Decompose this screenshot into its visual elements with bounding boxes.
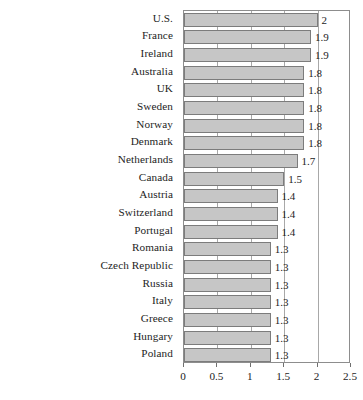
bar xyxy=(184,242,271,256)
x-tick-label: 2.5 xyxy=(343,370,357,382)
bar xyxy=(184,260,271,274)
category-label: Greece xyxy=(141,313,173,324)
category-label: UK xyxy=(157,83,173,94)
x-tick-label: 2 xyxy=(314,370,320,382)
category-label: Austria xyxy=(139,189,173,200)
bar-value-label: 1.8 xyxy=(308,101,322,115)
bar-value-label: 1.7 xyxy=(302,154,316,168)
bar-value-label: 1.3 xyxy=(275,260,289,274)
category-label: Netherlands xyxy=(118,154,173,165)
bar-value-label: 1.9 xyxy=(315,48,329,62)
bar xyxy=(184,66,304,80)
bar-value-label: 1.3 xyxy=(275,348,289,362)
category-label: Hungary xyxy=(133,331,173,342)
bar xyxy=(184,154,298,168)
bar xyxy=(184,136,304,150)
bar-value-label: 1.3 xyxy=(275,331,289,345)
category-label: Switzerland xyxy=(118,207,173,218)
bar-value-label: 1.3 xyxy=(275,295,289,309)
bar-value-label: 1.4 xyxy=(282,225,296,239)
gridline xyxy=(351,11,352,362)
bar-value-label: 1.4 xyxy=(282,189,296,203)
category-label: Italy xyxy=(152,295,173,306)
category-label: Canada xyxy=(139,172,173,183)
x-tick-label: 0 xyxy=(180,370,186,382)
bar xyxy=(184,313,271,327)
bar xyxy=(184,48,311,62)
bar xyxy=(184,119,304,133)
bar-value-label: 1.3 xyxy=(275,313,289,327)
x-tick-label: 0.5 xyxy=(209,370,223,382)
category-label: Russia xyxy=(143,278,173,289)
category-label: France xyxy=(142,30,173,41)
category-label: Romania xyxy=(132,242,173,253)
bars-layer: 21.91.91.81.81.81.81.81.71.51.41.41.41.3… xyxy=(184,11,349,362)
category-label: Poland xyxy=(141,348,173,359)
bar xyxy=(184,225,278,239)
category-label: Portugal xyxy=(134,225,173,236)
bar xyxy=(184,13,318,27)
bar xyxy=(184,189,278,203)
category-label: Denmark xyxy=(131,136,173,147)
bar xyxy=(184,331,271,345)
bar-value-label: 1.9 xyxy=(315,30,329,44)
bar-value-label: 1.3 xyxy=(275,278,289,292)
bar-value-label: 1.4 xyxy=(282,207,296,221)
plot-area: 21.91.91.81.81.81.81.81.71.51.41.41.41.3… xyxy=(183,10,350,363)
x-tick-mark xyxy=(317,363,318,367)
category-axis: U.S.FranceIrelandAustraliaUKSwedenNorway… xyxy=(0,10,178,363)
category-label: Sweden xyxy=(137,101,173,112)
bar-value-label: 1.8 xyxy=(308,136,322,150)
bar xyxy=(184,30,311,44)
x-tick-mark xyxy=(250,363,251,367)
bar-value-label: 1.8 xyxy=(308,66,322,80)
x-tick-label: 1.5 xyxy=(276,370,290,382)
category-label: Australia xyxy=(131,66,173,77)
bar-value-label: 2 xyxy=(322,13,328,27)
bar xyxy=(184,172,284,186)
category-label: Ireland xyxy=(141,48,173,59)
bar-value-label: 1.8 xyxy=(308,119,322,133)
x-tick-mark xyxy=(283,363,284,367)
category-label: U.S. xyxy=(153,13,173,24)
x-axis: 00.511.522.5 xyxy=(183,363,350,393)
x-tick-label: 1 xyxy=(247,370,253,382)
bar xyxy=(184,278,271,292)
bar xyxy=(184,101,304,115)
bar xyxy=(184,348,271,362)
x-tick-mark xyxy=(216,363,217,367)
bar xyxy=(184,83,304,97)
category-label: Czech Republic xyxy=(100,260,173,271)
bar-value-label: 1.3 xyxy=(275,242,289,256)
bar-value-label: 1.5 xyxy=(288,172,302,186)
x-tick-mark xyxy=(183,363,184,367)
bar-value-label: 1.8 xyxy=(308,83,322,97)
bar xyxy=(184,207,278,221)
bar-chart: U.S.FranceIrelandAustraliaUKSwedenNorway… xyxy=(0,0,363,400)
x-tick-mark xyxy=(350,363,351,367)
bar xyxy=(184,295,271,309)
category-label: Norway xyxy=(136,119,173,130)
